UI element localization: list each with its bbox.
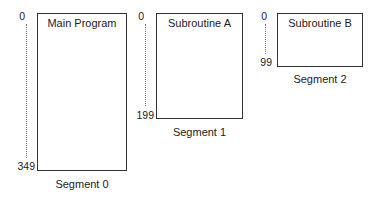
segment-1-title: Subroutine A xyxy=(157,17,242,29)
segment-2-title: Subroutine B xyxy=(278,17,362,29)
segment-2-box: Subroutine B xyxy=(277,13,363,67)
segment-1-start: 0 xyxy=(122,10,144,22)
segment-0-start: 0 xyxy=(3,10,25,22)
segment-1-box: Subroutine A xyxy=(156,13,243,119)
segment-2-range-line xyxy=(265,24,266,54)
segment-0-end: 349 xyxy=(13,160,35,172)
segment-0-title: Main Program xyxy=(38,17,126,29)
segment-1-label: Segment 1 xyxy=(156,126,243,138)
segment-0-range-line xyxy=(26,24,27,158)
segment-1-end: 199 xyxy=(132,109,154,121)
segment-1-range-line xyxy=(145,24,146,106)
segment-0-label: Segment 0 xyxy=(37,178,127,190)
segment-2-end: 99 xyxy=(250,56,272,68)
segment-0-box: Main Program xyxy=(37,13,127,171)
segment-2-label: Segment 2 xyxy=(277,73,363,85)
segment-2-start: 0 xyxy=(245,10,267,22)
